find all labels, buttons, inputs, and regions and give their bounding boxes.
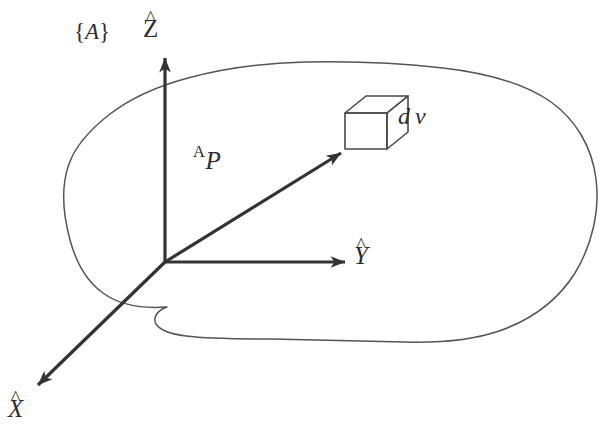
z-hat-accent: ^ [146, 8, 155, 28]
y-hat-accent: ^ [356, 235, 365, 255]
position-vector-symbol: P [205, 147, 220, 174]
frame-close-brace: } [99, 19, 110, 44]
diagram-canvas [0, 0, 615, 442]
frame-open-brace: { [74, 19, 85, 44]
axis-x-label: ^X [8, 396, 23, 421]
vector-diagram-figure: {A} ^Z ^Y ^X AP dv [0, 0, 615, 442]
frame-label: {A} [74, 20, 110, 43]
body-outline-path [64, 62, 597, 342]
volume-element-label: dv [398, 104, 426, 128]
position-vector-frame-superscript: A [193, 142, 205, 161]
position-vector-label: AP [193, 144, 221, 173]
axis-x-line [38, 262, 165, 385]
position-vector-line [165, 153, 341, 262]
axis-y-label: ^Y [354, 243, 368, 268]
differential-operator: d [398, 103, 410, 129]
x-hat-accent: ^ [11, 388, 20, 408]
volume-symbol: v [415, 103, 426, 129]
frame-name: A [85, 19, 99, 44]
axis-z-label: ^Z [143, 16, 158, 41]
